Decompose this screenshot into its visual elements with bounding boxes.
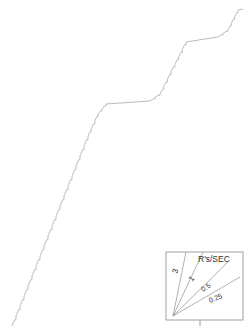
figure-canvas: R's/SEC 310.50.25: [0, 0, 248, 330]
figure-background: [0, 0, 248, 330]
inset-header-label: R's/SEC: [198, 254, 230, 264]
